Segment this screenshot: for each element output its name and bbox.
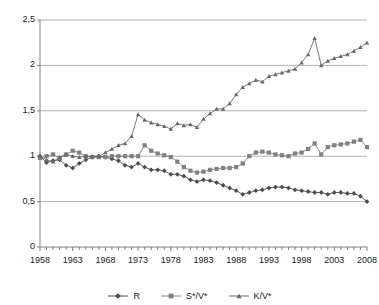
chart-container: RS*/V*K/V* 00,511,522,519581963196819731… bbox=[0, 0, 379, 305]
y-axis-tick-label: 0 bbox=[30, 241, 35, 251]
legend-label: S*/V* bbox=[186, 291, 208, 301]
legend-item-SV[interactable]: S*/V* bbox=[160, 291, 208, 301]
y-axis-tick-label: 0,5 bbox=[22, 196, 35, 206]
legend-item-KV[interactable]: K/V* bbox=[228, 291, 272, 301]
y-axis-tick-label: 1 bbox=[30, 150, 35, 160]
legend-marker-triangle-icon bbox=[228, 291, 250, 301]
legend-label: K/V* bbox=[254, 291, 272, 301]
legend-item-R[interactable]: R bbox=[107, 291, 140, 301]
legend-marker-diamond-icon bbox=[107, 291, 129, 301]
y-axis-tick-label: 2 bbox=[30, 59, 35, 69]
y-axis-tick-label: 2,5 bbox=[22, 14, 35, 24]
legend-label: R bbox=[133, 291, 140, 301]
x-axis-tick-label: 2008 bbox=[347, 255, 379, 265]
legend-marker-square-icon bbox=[160, 291, 182, 301]
chart-legend: RS*/V*K/V* bbox=[0, 291, 379, 301]
y-axis-tick-label: 1,5 bbox=[22, 105, 35, 115]
